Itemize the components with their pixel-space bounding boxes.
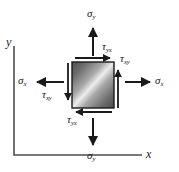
sigma-x-right-label: σx	[155, 75, 163, 86]
tau-yx-top-subscript: yx	[106, 46, 112, 53]
sigma-y-bottom-subscript: y	[92, 155, 95, 162]
tau-yx-bottom-subscript: yx	[71, 119, 77, 126]
x-axis-label: x	[146, 148, 151, 160]
tau-xy-left-subscript: xy	[46, 94, 52, 101]
figure-canvas	[0, 0, 179, 172]
y-axis-label: y	[6, 36, 11, 48]
tau-yx-bottom-label: τyx	[67, 114, 77, 125]
stress-element-figure: y x σy σy σx σx τyx τyx τxy τxy	[0, 0, 179, 172]
sigma-x-left-subscript: x	[23, 80, 26, 87]
stress-square-body	[72, 62, 114, 108]
sigma-y-bottom-label: σy	[87, 150, 95, 161]
sigma-y-top-label: σy	[87, 8, 95, 19]
tau-yx-top-label: τyx	[102, 41, 112, 52]
tau-xy-left-label: τxy	[42, 89, 52, 100]
tau-xy-right-label: τxy	[120, 53, 130, 64]
sigma-x-left-label: σx	[18, 75, 26, 86]
tau-xy-right-subscript: xy	[124, 58, 130, 65]
sigma-x-right-subscript: x	[160, 80, 163, 87]
stress-square	[72, 62, 114, 108]
sigma-y-top-subscript: y	[92, 13, 95, 20]
